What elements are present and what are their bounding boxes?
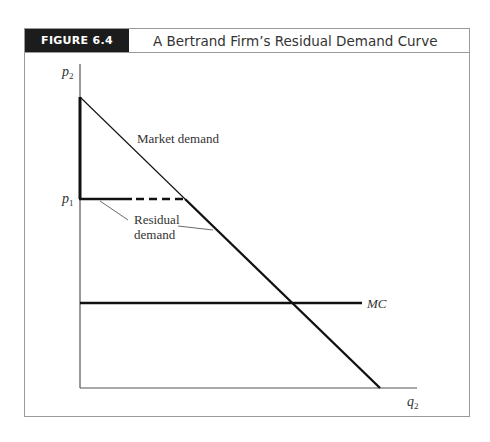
- residual-leader-left: [100, 201, 128, 220]
- residual-demand-label-line1: Residual: [134, 212, 180, 227]
- x-axis-label: q2: [407, 394, 419, 411]
- y-axis-label: p2: [61, 64, 74, 81]
- market-demand-line: [80, 97, 185, 199]
- market-demand-label: Market demand: [137, 131, 219, 146]
- mc-label: MC: [366, 296, 387, 311]
- p1-label: p1: [61, 191, 74, 208]
- residual-demand-lower: [185, 199, 380, 388]
- chart-canvas: p2 p1 q2 Market demand Residual demand M…: [0, 0, 490, 442]
- residual-demand-label-line2: demand: [134, 227, 176, 242]
- residual-leader-right: [178, 226, 213, 230]
